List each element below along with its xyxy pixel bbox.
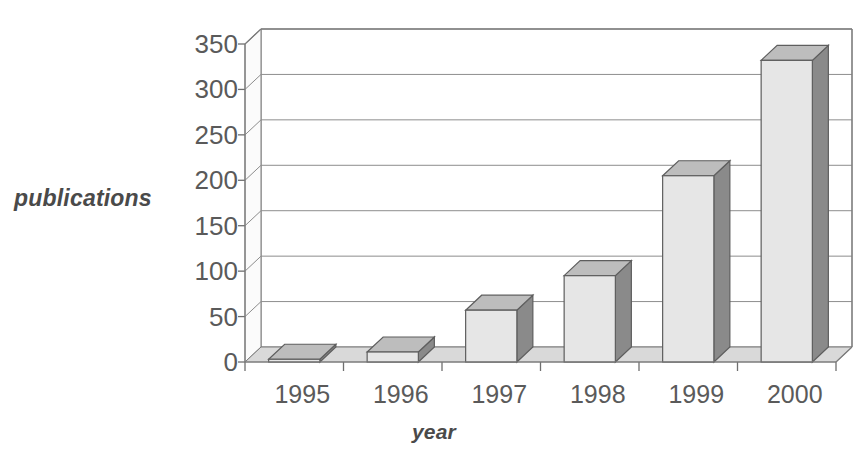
bar-1998	[564, 261, 631, 362]
bar-1997	[466, 295, 533, 362]
chart-container: publications year 050100150200250300350 …	[0, 0, 868, 466]
bar-2000	[761, 45, 828, 362]
bar-1999	[663, 161, 730, 362]
plot-area	[0, 0, 868, 466]
